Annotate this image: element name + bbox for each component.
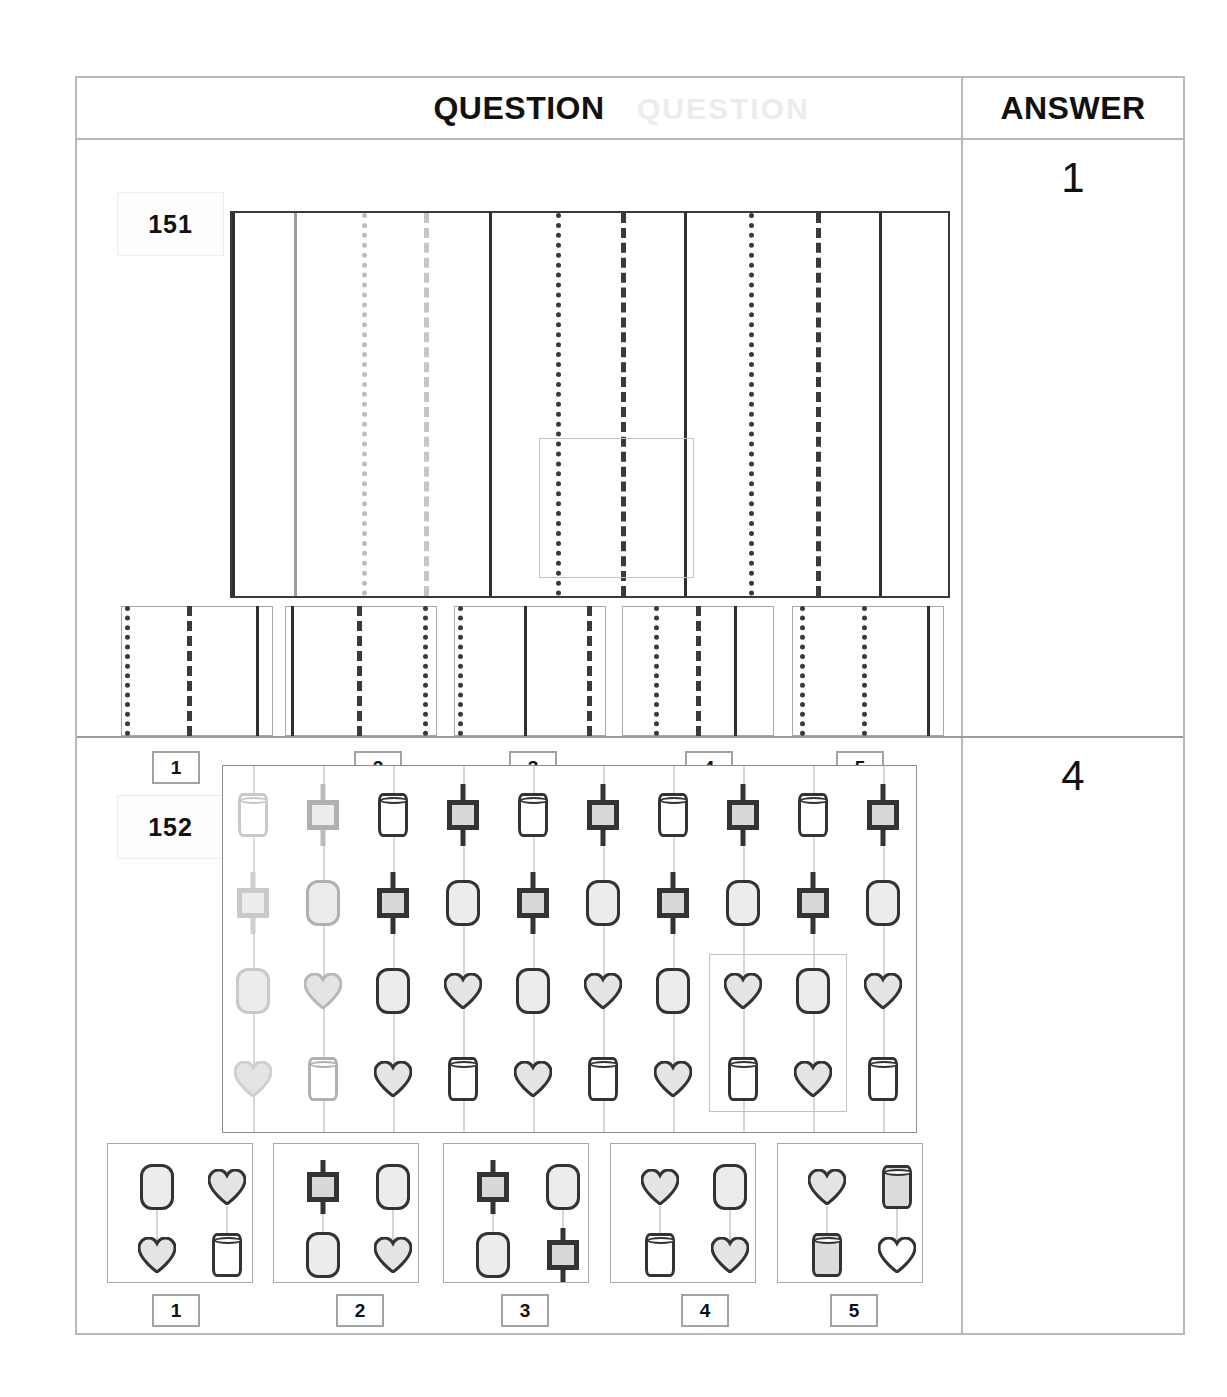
stem-line-11: [879, 213, 882, 596]
option-cell: [532, 1156, 594, 1218]
square-shape: [867, 800, 899, 830]
question-cell-151: 151: [77, 140, 961, 736]
heart-shape: [641, 1169, 679, 1205]
heart-shape: [584, 973, 622, 1009]
cylinder-shape: [238, 793, 268, 837]
stem-cell: [297, 960, 349, 1022]
question-sheet: QUESTION QUESTION ANSWER 151: [75, 76, 1185, 1335]
option-151-2[interactable]: [285, 606, 437, 736]
stub: [601, 828, 606, 846]
option-cell: [126, 1224, 188, 1286]
option-line-dashed: [357, 606, 362, 736]
question-cell-152: 152 1 2 3 4 5: [77, 738, 961, 1335]
option-cell: [796, 1156, 858, 1218]
stem-cell: [717, 784, 769, 846]
option-cell: [866, 1224, 928, 1286]
option-line-solid: [524, 606, 527, 736]
heart-shape: [208, 1169, 246, 1205]
stem-cell: [787, 784, 839, 846]
option-label-152-1[interactable]: 1: [152, 1294, 200, 1327]
heart-shape: [374, 1237, 412, 1273]
square-shape: [307, 1172, 339, 1202]
option-cell: [292, 1224, 354, 1286]
roundrect-shape: [476, 1232, 510, 1278]
square-shape: [237, 888, 269, 918]
option-cell: [126, 1156, 188, 1218]
option-cell: [462, 1224, 524, 1286]
roundrect-shape: [586, 880, 620, 926]
roundrect-shape: [546, 1164, 580, 1210]
stem-cell: [437, 960, 489, 1022]
option-152-3[interactable]: [443, 1143, 589, 1283]
square-shape: [477, 1172, 509, 1202]
heart-shape: [234, 1061, 272, 1097]
option-cell: [699, 1224, 761, 1286]
roundrect-shape: [376, 968, 410, 1014]
option-cell: [532, 1224, 594, 1286]
stub: [531, 916, 536, 934]
stem-cell: [227, 872, 279, 934]
option-label-152-4[interactable]: 4: [681, 1294, 729, 1327]
cylinder-shaded-shape: [882, 1165, 912, 1209]
stub: [741, 828, 746, 846]
stub: [671, 916, 676, 934]
option-151-1[interactable]: [121, 606, 273, 736]
option-line-dotted: [125, 606, 130, 736]
option-label-152-5[interactable]: 5: [830, 1294, 878, 1327]
option-frame: [792, 606, 944, 736]
option-line-dashed: [187, 606, 192, 736]
question-number-151: 151: [117, 192, 224, 256]
heart-shape: [374, 1061, 412, 1097]
stem-cell: [297, 872, 349, 934]
option-line-solid: [256, 606, 259, 736]
square-shape: [587, 800, 619, 830]
heart-shape: [864, 973, 902, 1009]
option-152-2[interactable]: [273, 1143, 419, 1283]
stem-cell: [577, 1048, 629, 1110]
stem-cell: [857, 1048, 909, 1110]
stem-cell: [857, 872, 909, 934]
stem-cell: [857, 784, 909, 846]
option-152-5[interactable]: [777, 1143, 923, 1283]
option-cell: [292, 1156, 354, 1218]
option-151-5[interactable]: [792, 606, 944, 736]
option-152-4[interactable]: [610, 1143, 756, 1283]
stem-line-9: [749, 213, 754, 596]
option-151-4[interactable]: [622, 606, 774, 736]
option-151-3[interactable]: [454, 606, 606, 736]
option-line-dashed: [696, 606, 701, 736]
stem-cell: [647, 1048, 699, 1110]
stem-cell: [437, 1048, 489, 1110]
cylinder-shape: [868, 1057, 898, 1101]
roundrect-shape: [140, 1164, 174, 1210]
stub: [321, 828, 326, 846]
stub: [461, 828, 466, 846]
option-line-solid: [734, 606, 737, 736]
answer-value-152: 4: [963, 752, 1183, 800]
stem-cell: [367, 872, 419, 934]
stem-cell: [647, 960, 699, 1022]
heart-shape: [514, 1061, 552, 1097]
cylinder-shape: [308, 1057, 338, 1101]
heart-plain-shape: [878, 1237, 916, 1273]
option-frame: [454, 606, 606, 736]
stem-cell: [507, 960, 559, 1022]
option-line-dotted-b: [862, 606, 867, 736]
heart-shape: [654, 1061, 692, 1097]
cylinder-shape: [518, 793, 548, 837]
cylinder-shape: [378, 793, 408, 837]
option-cell: [629, 1224, 691, 1286]
option-label-152-2[interactable]: 2: [336, 1294, 384, 1327]
stub: [881, 828, 886, 846]
option-cell: [196, 1224, 258, 1286]
option-cell: [362, 1224, 424, 1286]
option-152-1[interactable]: [107, 1143, 253, 1283]
stem-cell: [297, 784, 349, 846]
question-row-152: 152 1 2 3 4 5 4: [77, 738, 1183, 1335]
question-row-151: 151: [77, 140, 1183, 738]
stem-line-4: [424, 213, 429, 596]
option-cell: [362, 1156, 424, 1218]
question-number-152: 152: [117, 795, 224, 859]
option-label-152-3[interactable]: 3: [501, 1294, 549, 1327]
square-shape: [547, 1240, 579, 1270]
